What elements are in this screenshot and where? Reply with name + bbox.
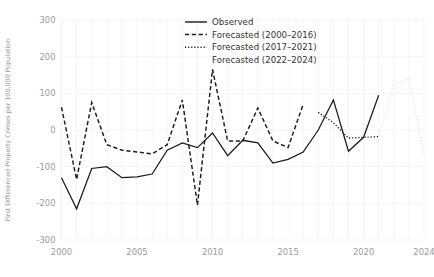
y-tick-label: 300 [40,15,56,25]
y-tick-label: -100 [36,162,55,172]
y-tick-label: 200 [40,52,56,62]
legend-label: Forecasted (2017–2021) [212,42,317,52]
x-tick-label: 2000 [51,247,72,257]
y-tick-label: -200 [36,198,55,208]
x-tick-label: 2024 [413,247,434,257]
chart-container: 3002001000-100-200-300200020052010201520… [0,0,434,277]
y-tick-label: 100 [40,88,56,98]
y-axis-title: First Differenced Property Crimes per 10… [4,39,12,222]
x-tick-label: 2005 [126,247,147,257]
line-chart: 3002001000-100-200-300200020052010201520… [0,0,434,277]
y-tick-label: -300 [36,235,55,245]
x-tick-label: 2015 [277,247,298,257]
legend-label: Forecasted (2022–2024) [212,55,317,65]
x-tick-label: 2010 [202,247,223,257]
x-tick-label: 2020 [353,247,374,257]
series-forecast-2022-2024 [379,79,424,154]
y-tick-label: 0 [50,125,55,135]
legend-label: Forecasted (2000–2016) [212,30,317,40]
legend-label: Observed [212,17,253,27]
series-observed [62,95,379,209]
